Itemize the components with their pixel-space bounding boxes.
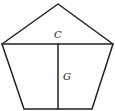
label-g: G <box>63 71 71 82</box>
pentagon-diagram: C G <box>0 0 115 111</box>
label-c: C <box>54 29 62 40</box>
